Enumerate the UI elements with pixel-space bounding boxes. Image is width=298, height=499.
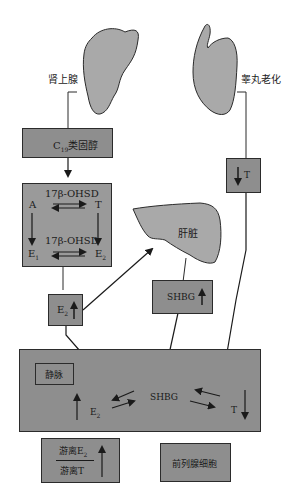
up-arrow-icon <box>153 281 214 315</box>
adrenal-label: 肾上腺 <box>48 71 78 86</box>
c19-label: C19类固醇 <box>53 137 98 153</box>
up-arrow-icon <box>49 295 84 327</box>
equilibrium-arrows <box>20 350 262 433</box>
liver-to-shbg <box>183 258 186 282</box>
c19-steroid-box: C19类固醇 <box>22 128 113 158</box>
adrenal-gland-shape <box>83 29 138 114</box>
t-decrease-label: T <box>244 170 250 180</box>
enzyme-conversion-box: 17β-OHSD A T 17β-OHSD E1 E2 <box>22 183 112 267</box>
e2-increase-box: E2 <box>48 294 83 326</box>
testis-connector <box>237 92 246 158</box>
testis-label: 睾丸老化 <box>241 71 281 86</box>
blood-circulation-box: 静脉 E2 SHBG T <box>19 349 261 432</box>
t-decrease-box: T <box>226 158 261 193</box>
free-ratio-box: 游离E2 游离T <box>41 438 120 483</box>
enzyme-arrows <box>22 183 112 267</box>
testis-shape <box>193 24 237 114</box>
prostate-cell-box: 前列腺细胞 <box>160 443 231 482</box>
adrenal-connector <box>68 92 77 128</box>
shbg-increase-box: SHBG <box>152 280 213 314</box>
up-arrow-icon <box>42 439 121 484</box>
liver-label: 肝脏 <box>178 225 198 240</box>
prostate-cell-label: 前列腺细胞 <box>172 457 217 470</box>
